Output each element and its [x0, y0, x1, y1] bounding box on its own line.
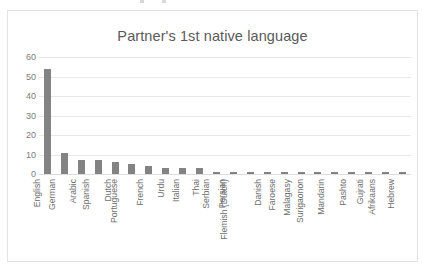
- bar-slot: [124, 57, 141, 174]
- bar-slot: [360, 57, 377, 174]
- bar: [128, 164, 135, 174]
- bar-slot: [39, 57, 56, 174]
- clipped-artifact-right: [162, 0, 166, 3]
- clipped-artifact-left: [140, 0, 144, 3]
- category-slot: Italian: [174, 177, 191, 257]
- y-axis-tick-label: 0: [8, 170, 36, 179]
- bar: [281, 172, 288, 174]
- bar: [331, 172, 338, 174]
- bar: [298, 172, 305, 174]
- x-axis-tick-label: Gujrati: [356, 179, 365, 204]
- bar-slot: [259, 57, 276, 174]
- bar-slot: [293, 57, 310, 174]
- y-axis: 6050403020100: [8, 57, 36, 174]
- x-axis-tick-label: Flemish (Dutch): [220, 179, 229, 240]
- bar: [44, 69, 51, 174]
- bar-slot: [140, 57, 157, 174]
- x-axis-tick-label: English: [33, 179, 42, 207]
- y-axis-tick-label: 10: [8, 150, 36, 159]
- x-axis-tick-label: Surigaonon: [296, 179, 305, 223]
- bar-slot: [90, 57, 107, 174]
- x-axis-tick-label: Mandarin: [317, 179, 326, 215]
- bar-slot: [56, 57, 73, 174]
- bar: [264, 172, 271, 174]
- bar: [145, 166, 152, 174]
- x-axis-tick-label: German: [49, 179, 58, 210]
- bar: [230, 172, 237, 174]
- y-axis-tick-label: 20: [8, 131, 36, 140]
- chart-container: Partner's 1st native language 6050403020…: [7, 10, 418, 262]
- y-axis-tick-label: 30: [8, 111, 36, 120]
- bar-slot: [225, 57, 242, 174]
- bar: [95, 160, 102, 174]
- x-axis-tick-label: Faroese: [268, 179, 277, 211]
- x-axis-tick-label: Portuguese: [110, 179, 119, 223]
- bar-slot: [174, 57, 191, 174]
- bar-slot: [73, 57, 90, 174]
- bar-slot: [310, 57, 327, 174]
- bar-slot: [394, 57, 411, 174]
- x-axis-categories: EnglishGermanArabicSpanishDutchPortugues…: [39, 177, 411, 257]
- x-axis-tick-label: Pashto: [338, 179, 347, 206]
- bar: [179, 168, 186, 174]
- y-axis-tick-label: 50: [8, 72, 36, 81]
- bar: [314, 172, 321, 174]
- bar-slot: [326, 57, 343, 174]
- x-axis-tick-label: Afrikaans: [368, 179, 377, 215]
- bar-slot: [343, 57, 360, 174]
- category-slot: Hebrew: [394, 177, 411, 257]
- x-axis-tick-label: Hebrew: [388, 179, 397, 209]
- bar: [196, 168, 203, 174]
- y-axis-tick-label: 40: [8, 92, 36, 101]
- plot-area: 6050403020100 EnglishGermanArabicSpanish…: [8, 11, 417, 261]
- bar: [247, 172, 254, 174]
- x-axis-tick-label: French: [136, 179, 145, 206]
- x-axis-tick-label: Serbian: [202, 179, 211, 209]
- bar: [382, 172, 389, 174]
- bar-series: [39, 57, 411, 174]
- x-axis-tick-label: Urdu: [156, 179, 165, 198]
- x-axis-tick-label: Danish: [254, 179, 263, 206]
- x-axis-tick-label: Malagasy: [283, 179, 292, 216]
- bar: [61, 153, 68, 174]
- bar: [213, 172, 220, 174]
- bar: [78, 160, 85, 174]
- bar: [399, 172, 406, 174]
- bar: [365, 172, 372, 174]
- bar-slot: [208, 57, 225, 174]
- bar: [348, 172, 355, 174]
- axis-baseline: [39, 174, 411, 175]
- bar: [162, 168, 169, 174]
- bar-slot: [377, 57, 394, 174]
- x-axis-tick-label: Thai: [191, 179, 200, 196]
- bar-slot: [276, 57, 293, 174]
- x-axis-tick-label: Spanish: [83, 179, 92, 210]
- bar: [112, 162, 119, 174]
- bar-slot: [157, 57, 174, 174]
- bar-slot: [242, 57, 259, 174]
- bar-slot: [191, 57, 208, 174]
- bar-slot: [107, 57, 124, 174]
- y-axis-tick-label: 60: [8, 53, 36, 62]
- x-axis-tick-label: Italian: [171, 179, 180, 202]
- x-axis-tick-label: Arabic: [69, 179, 78, 203]
